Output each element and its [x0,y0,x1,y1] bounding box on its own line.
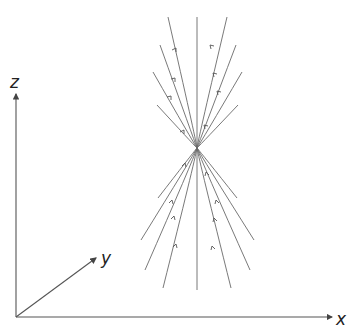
x-axis-label: x [335,309,347,329]
ray-bundle-diagram: z y x [0,0,357,336]
ray-6 [141,72,242,240]
arrow-mark-icon [204,125,208,129]
arrow-mark-icon [215,200,219,204]
coordinate-axes: z y x [9,72,347,329]
arrow-mark-icon [213,218,217,222]
arrow-mark-icon [213,73,217,77]
ray-4 [145,45,236,270]
arrow-mark-icon [171,216,175,220]
arrow-mark-icon [211,246,215,250]
ray-bundle [141,17,254,290]
arrow-mark-icon [169,200,173,204]
arrow-mark-icon [210,45,214,49]
y-axis-label: y [100,248,112,268]
arrow-mark-icon [217,91,221,95]
y-axis [16,258,96,317]
z-axis-label: z [9,72,20,92]
